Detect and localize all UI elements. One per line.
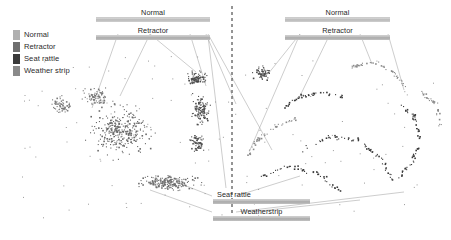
data-point [402, 85, 403, 86]
data-point [266, 75, 267, 76]
data-point [339, 204, 340, 205]
data-point [390, 174, 391, 175]
data-point [205, 73, 206, 74]
data-point [177, 182, 178, 183]
data-point [256, 69, 258, 71]
data-point [401, 83, 402, 84]
data-point [63, 103, 64, 104]
data-point [204, 81, 205, 82]
data-point [419, 138, 421, 140]
data-point [155, 178, 156, 179]
data-point [145, 177, 146, 178]
data-point [150, 148, 152, 150]
data-point [297, 168, 299, 170]
data-point [253, 143, 254, 144]
data-point [231, 168, 232, 169]
data-point [83, 90, 84, 91]
data-point [107, 103, 108, 104]
data-point [417, 184, 418, 185]
data-point [119, 132, 120, 133]
data-point [144, 125, 145, 126]
data-point [126, 147, 127, 148]
data-point [192, 176, 193, 177]
data-point [399, 80, 400, 81]
data-point [385, 154, 386, 155]
data-point [398, 177, 399, 178]
data-point [170, 177, 172, 179]
data-point [112, 134, 113, 135]
data-point [193, 76, 194, 77]
data-point [370, 151, 371, 152]
data-point [191, 148, 193, 150]
data-point [118, 137, 119, 138]
data-point [332, 184, 334, 186]
data-point [125, 78, 126, 79]
data-point [185, 179, 187, 181]
data-point [252, 147, 253, 148]
data-point [332, 186, 333, 187]
data-point [354, 211, 355, 212]
data-point [107, 154, 108, 155]
data-point [261, 134, 262, 135]
data-point [168, 177, 169, 178]
data-point [30, 147, 31, 148]
data-point [114, 123, 116, 125]
data-point [112, 125, 113, 126]
data-point [111, 138, 113, 140]
data-point [119, 133, 120, 134]
data-point [165, 182, 166, 183]
data-point [294, 100, 296, 102]
data-point [333, 150, 334, 151]
data-point [138, 122, 140, 124]
data-point [252, 72, 253, 73]
data-point [175, 178, 177, 180]
data-point [191, 136, 192, 137]
data-point [132, 143, 133, 144]
data-point [429, 100, 430, 101]
data-point [202, 81, 203, 82]
data-point [439, 124, 440, 125]
data-point [178, 178, 179, 179]
data-point [203, 78, 205, 80]
data-point [132, 117, 133, 118]
data-point [155, 185, 156, 186]
data-point [103, 97, 104, 98]
data-point [192, 73, 193, 74]
data-point [390, 177, 391, 178]
data-point [157, 184, 158, 185]
data-point [63, 185, 64, 186]
data-point [109, 139, 111, 141]
data-point [258, 73, 260, 75]
data-point [386, 167, 387, 168]
data-point [404, 91, 405, 92]
data-point [259, 77, 260, 78]
data-point [403, 106, 404, 107]
data-point [245, 75, 246, 76]
data-point [125, 131, 126, 132]
data-point [258, 68, 259, 69]
data-point [437, 109, 439, 111]
data-point [199, 75, 200, 76]
data-point [256, 72, 258, 74]
data-point [179, 182, 181, 184]
data-point [291, 120, 292, 121]
data-point [120, 120, 121, 121]
data-point [116, 130, 117, 131]
data-point [193, 101, 194, 102]
data-point [135, 132, 136, 133]
data-point [119, 143, 121, 145]
data-point [167, 186, 169, 188]
data-point [146, 126, 147, 127]
data-point [392, 179, 394, 181]
data-point [158, 180, 159, 181]
data-point [305, 95, 306, 96]
data-point [122, 131, 124, 133]
annotation-bar-top-left-retractor [96, 35, 210, 40]
data-point [317, 172, 318, 173]
data-point [202, 113, 203, 114]
data-point [203, 96, 204, 97]
data-point [90, 100, 91, 101]
data-point [117, 117, 118, 118]
data-point [133, 135, 134, 136]
data-point [198, 142, 199, 143]
